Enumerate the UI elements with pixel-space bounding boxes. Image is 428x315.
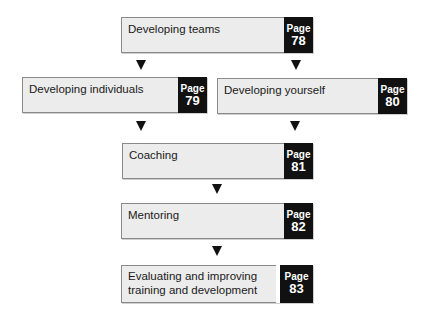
arrow-down-icon	[290, 121, 300, 131]
page-number: 80	[378, 95, 407, 109]
arrow-down-icon	[136, 121, 146, 131]
node-coaching: Coaching Page 81	[122, 143, 313, 179]
arrow-down-icon	[291, 60, 301, 70]
node-label: Developing yourself	[224, 83, 325, 97]
page-reference: Page 79	[178, 77, 207, 113]
node-evaluating: Evaluating and improving training and de…	[121, 265, 313, 303]
arrow-down-icon	[212, 184, 222, 194]
node-developing-individuals: Developing individuals Page 79	[22, 77, 207, 113]
page-number: 78	[284, 34, 313, 48]
node-label: Evaluating and improving training and de…	[128, 269, 257, 297]
page-number: 81	[284, 160, 313, 174]
page-number: 83	[280, 282, 313, 296]
node-developing-yourself: Developing yourself Page 80	[217, 78, 407, 114]
node-mentoring: Mentoring Page 82	[121, 203, 313, 239]
page-reference: Page 82	[284, 203, 313, 239]
arrow-down-icon	[212, 246, 222, 256]
page-reference: Page 83	[276, 265, 313, 303]
arrow-down-icon	[136, 60, 146, 70]
node-label: Developing teams	[128, 22, 220, 36]
page-reference: Page 78	[284, 17, 313, 53]
page-reference: Page 80	[378, 78, 407, 114]
node-developing-teams: Developing teams Page 78	[121, 17, 313, 53]
page-number: 82	[284, 220, 313, 234]
node-label: Mentoring	[128, 208, 179, 222]
page-reference: Page 81	[284, 143, 313, 179]
page-number: 79	[178, 94, 207, 108]
node-label: Coaching	[129, 148, 178, 162]
node-label: Developing individuals	[29, 82, 143, 96]
